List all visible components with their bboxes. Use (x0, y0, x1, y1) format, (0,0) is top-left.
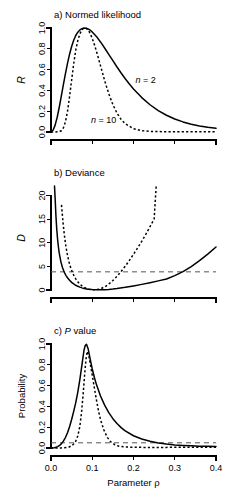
y-axis-title-c: Probability (16, 374, 27, 419)
panel-title-c: c) P value (54, 325, 96, 336)
curves-b (55, 186, 216, 290)
curves-c (51, 344, 216, 448)
y-tick-label-a-4: 0.8 (37, 43, 47, 56)
statistical-figure: a) Normed likelihood0.00.20.40.60.81.0Rn… (0, 0, 243, 492)
y-tick-label-c-0: 0.0 (37, 442, 47, 455)
x-axis-title-c: Parameter ρ (107, 477, 160, 488)
y-tick-label-b-4: 20 (37, 190, 47, 200)
y-tick-label-b-2: 10 (37, 238, 47, 248)
x-tick-label-c-2: 0.2 (127, 463, 140, 473)
panel-b: b) Deviance05101520D (15, 167, 216, 303)
curve-b-n10 (62, 186, 157, 290)
y-tick-label-a-2: 0.4 (37, 84, 47, 97)
three-panel-plot: a) Normed likelihood0.00.20.40.60.81.0Rn… (0, 0, 243, 492)
y-tick-label-c-1: 0.2 (37, 421, 47, 434)
x-tick-label-c-4: 0.4 (210, 463, 223, 473)
panel-a: a) Normed likelihood0.00.20.40.60.81.0Rn… (15, 9, 216, 145)
curve-b-n2 (55, 186, 216, 290)
x-tick-label-c-1: 0.1 (86, 463, 99, 473)
y-tick-label-b-1: 5 (37, 264, 47, 269)
y-tick-label-c-4: 0.8 (37, 359, 47, 372)
curve-a-n2 (51, 28, 216, 132)
curve-c-n2 (51, 344, 216, 448)
y-tick-label-b-0: 0 (37, 287, 47, 292)
panel-title-b: b) Deviance (54, 167, 105, 178)
y-tick-label-c-2: 0.4 (37, 400, 47, 413)
panel-c: c) P value0.00.20.40.60.81.0Probability0… (16, 325, 223, 488)
x-tick-label-c-0: 0.0 (45, 463, 58, 473)
curves-a (51, 28, 216, 132)
y-tick-label-c-3: 0.6 (37, 379, 47, 392)
panel-title-a: a) Normed likelihood (54, 9, 141, 20)
y-tick-label-a-3: 0.6 (37, 63, 47, 76)
y-tick-label-a-5: 1.0 (37, 22, 47, 35)
x-tick-label-c-3: 0.3 (168, 463, 181, 473)
y-tick-label-b-3: 15 (37, 214, 47, 224)
y-axis-title-b: D (15, 234, 27, 242)
y-axis-title-a: R (15, 76, 27, 84)
y-tick-label-c-5: 1.0 (37, 338, 47, 351)
curve-a-n10 (51, 28, 216, 132)
curve-annotation-a-1: n = 10 (91, 115, 116, 125)
y-tick-label-a-1: 0.2 (37, 105, 47, 118)
y-tick-label-a-0: 0.0 (37, 126, 47, 139)
curve-annotation-a-0: n = 2 (136, 75, 156, 85)
